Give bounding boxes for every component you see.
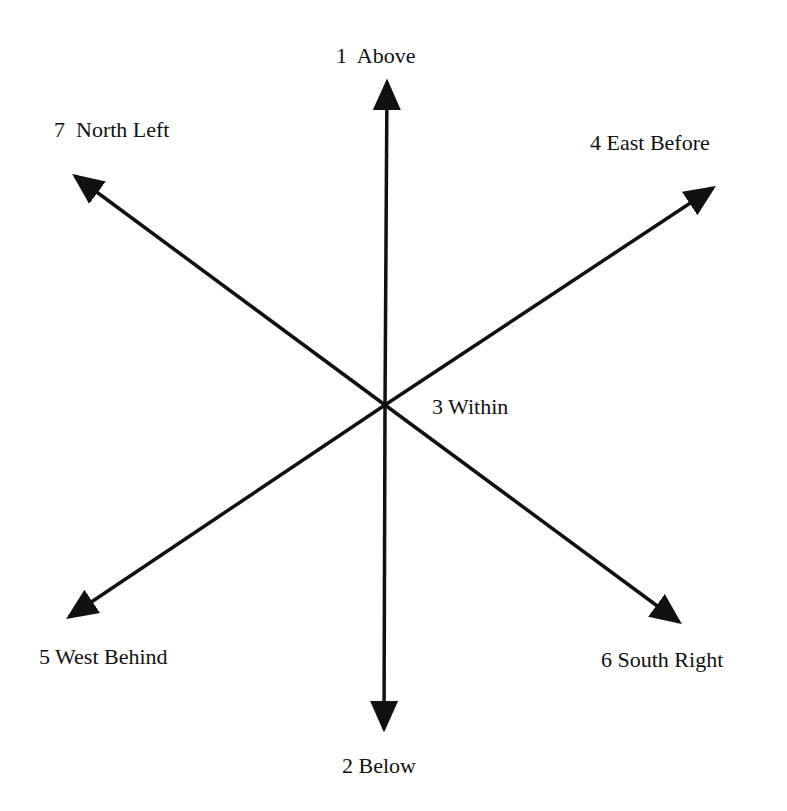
arrow-above [385,82,387,405]
arrow-south-right [385,405,679,622]
label-within: 3 Within [432,395,508,419]
label-west-behind: 5 West Behind [39,645,168,669]
arrows-group [69,82,713,729]
label-above: 1 Above [336,44,415,68]
arrow-west-behind [69,405,385,617]
label-south-right: 6 South Right [601,648,723,672]
label-east-before: 4 East Before [590,131,710,155]
label-below: 2 Below [342,754,416,778]
arrow-below [384,405,385,729]
arrow-east-before [385,188,713,405]
label-north-left: 7 North Left [54,118,169,142]
arrow-north-left [75,176,385,405]
